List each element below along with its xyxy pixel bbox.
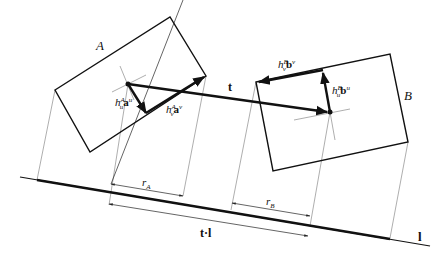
label-tl: t·l: [200, 226, 212, 240]
label-hAv: hAvav: [166, 103, 183, 118]
vector-hBu: [323, 73, 330, 112]
label-hBu: hBubu: [332, 84, 350, 99]
label-rA: rA: [142, 176, 151, 191]
label-rB: rB: [266, 195, 275, 210]
box-a-label: A: [95, 38, 104, 53]
axis-label: l: [418, 229, 422, 244]
label-hBv: hBvbv: [278, 58, 296, 73]
vector-hBv: [259, 70, 323, 82]
box-b-label: B: [404, 88, 412, 103]
label-t: t: [228, 80, 232, 94]
axis-l: l: [20, 177, 430, 246]
separating-axis-diagram: A B t hAuau hAvav hBvbv hBubu: [0, 0, 446, 257]
box-b: B: [256, 54, 412, 171]
axis-highlight: [37, 180, 390, 239]
